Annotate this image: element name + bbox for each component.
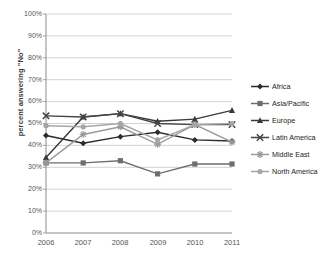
asterisk-marker <box>229 139 236 146</box>
line-chart: percent answering "No" 100% 90% 80% 70% … <box>0 0 323 261</box>
legend-item-europe[interactable]: Europe <box>250 112 323 129</box>
square-marker <box>257 101 262 106</box>
asterisk-marker <box>43 160 50 167</box>
legend-item-latin-america[interactable]: Latin America <box>250 129 323 146</box>
square-marker <box>229 161 234 166</box>
x-tick-label: 2006 <box>29 238 63 247</box>
x-tick-label: 2010 <box>178 238 212 247</box>
triangle-marker-icon <box>250 115 270 126</box>
series-middle-east <box>43 121 236 166</box>
asterisk-marker <box>80 131 87 138</box>
circle-marker <box>229 121 234 126</box>
circle-marker-icon <box>250 166 270 177</box>
diamond-marker <box>257 84 263 90</box>
circle-marker <box>257 169 262 174</box>
x-marker-icon <box>250 132 270 143</box>
x-tick-label: 2009 <box>141 238 175 247</box>
legend-item-africa[interactable]: Africa <box>250 78 323 95</box>
asterisk-marker <box>257 151 264 158</box>
series-europe <box>43 107 235 160</box>
triangle-marker <box>229 107 235 113</box>
legend-label: North America <box>272 167 318 176</box>
square-marker-icon <box>250 98 270 109</box>
legend-item-asia-pacific[interactable]: Asia/Pacific <box>250 95 323 112</box>
series-north-america <box>43 121 234 143</box>
chart-legend: Africa Asia/Pacific Europe Latin America… <box>250 78 323 180</box>
legend-label: Latin America <box>272 133 316 142</box>
square-marker <box>192 161 197 166</box>
diamond-marker-icon <box>250 81 270 92</box>
legend-label: Europe <box>272 116 295 125</box>
circle-marker <box>118 121 123 126</box>
x-tick-label: 2008 <box>103 238 137 247</box>
x-tick-label: 2011 <box>215 238 249 247</box>
diamond-marker <box>155 129 161 135</box>
diamond-marker <box>43 133 49 139</box>
asterisk-marker-icon <box>250 149 270 160</box>
square-marker <box>81 160 86 165</box>
x-tick-label: 2007 <box>66 238 100 247</box>
circle-marker <box>192 122 197 127</box>
legend-label: Asia/Pacific <box>272 99 309 108</box>
series-latin-america <box>43 110 235 127</box>
circle-marker <box>155 137 160 142</box>
legend-label: Middle East <box>272 150 310 159</box>
legend-item-middle-east[interactable]: Middle East <box>250 146 323 163</box>
legend-label: Africa <box>272 82 290 91</box>
circle-marker <box>43 123 48 128</box>
square-marker <box>155 171 160 176</box>
circle-marker <box>81 124 86 129</box>
diamond-marker <box>117 134 123 140</box>
square-marker <box>118 158 123 163</box>
diamond-marker <box>192 137 198 143</box>
legend-item-north-america[interactable]: North America <box>250 163 323 180</box>
